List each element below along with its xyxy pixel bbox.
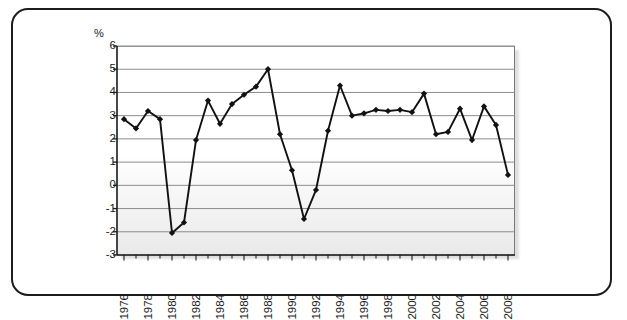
plot-area bbox=[117, 46, 515, 255]
x-tick-label: 2002 bbox=[431, 294, 443, 320]
data-point-marker bbox=[289, 167, 295, 173]
x-tick-label: 1998 bbox=[383, 294, 395, 320]
data-point-marker bbox=[505, 172, 511, 178]
data-point-marker bbox=[337, 82, 343, 88]
x-tick-label: 1990 bbox=[287, 294, 299, 320]
x-tick-label: 1996 bbox=[359, 294, 371, 320]
data-point-marker bbox=[313, 187, 319, 193]
data-point-marker bbox=[469, 137, 475, 143]
x-tick-label: 1992 bbox=[311, 294, 323, 320]
data-point-marker bbox=[397, 107, 403, 113]
x-tick-label: 1980 bbox=[167, 294, 179, 320]
x-tick-label: 1976 bbox=[119, 294, 131, 320]
x-axis-tick-labels: 1976197819801982198419861988199019921994… bbox=[117, 258, 517, 308]
data-point-marker bbox=[301, 216, 307, 222]
data-point-marker bbox=[193, 137, 199, 143]
x-tick-label: 1982 bbox=[191, 294, 203, 320]
data-point-marker bbox=[385, 108, 391, 114]
x-tick-label: 2004 bbox=[455, 294, 467, 320]
data-point-marker bbox=[361, 110, 367, 116]
data-point-marker bbox=[349, 113, 355, 119]
data-point-marker bbox=[433, 131, 439, 137]
series-polyline bbox=[124, 69, 508, 233]
x-tick-label: 1984 bbox=[215, 294, 227, 320]
x-tick-label: 1988 bbox=[263, 294, 275, 320]
x-tick-label: 1994 bbox=[335, 294, 347, 320]
data-point-marker bbox=[325, 128, 331, 134]
data-point-marker bbox=[277, 131, 283, 137]
y-axis-unit-label: % bbox=[94, 27, 104, 39]
x-tick-label: 2006 bbox=[479, 294, 491, 320]
x-tick-label: 2008 bbox=[503, 294, 515, 320]
y-axis-tick-labels: 6543210-1-2-3 bbox=[96, 40, 116, 262]
x-tick-label: 1978 bbox=[143, 294, 155, 320]
x-tick-label: 2000 bbox=[407, 294, 419, 320]
x-tick-label: 1986 bbox=[239, 294, 251, 320]
data-series-line bbox=[117, 46, 515, 255]
data-point-marker bbox=[373, 107, 379, 113]
